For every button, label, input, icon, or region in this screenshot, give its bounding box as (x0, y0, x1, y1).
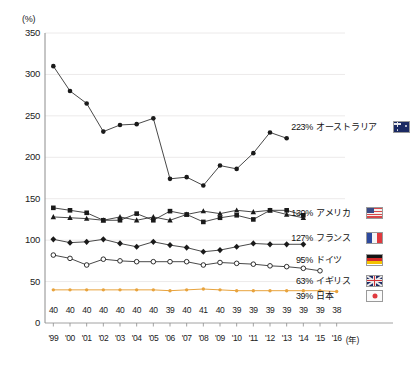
japan-data-label: 41 (194, 305, 212, 315)
japan-data-label: 40 (211, 305, 229, 315)
legend-entry: 127%フランス (285, 231, 383, 244)
data-series-germany (50, 236, 306, 255)
japan-data-label: 40 (94, 305, 112, 315)
y-axis-tick-label: 300 (14, 68, 40, 79)
japan-data-label: 39 (261, 305, 279, 315)
germany-flag-icon (366, 254, 383, 266)
legend-label: ドイツ (316, 253, 363, 266)
japan-data-label: 39 (311, 305, 329, 315)
legend-value: 63% (285, 276, 313, 286)
japan-data-label: 39 (161, 305, 179, 315)
x-axis-tick-label: '16 (326, 333, 348, 343)
japan-data-label: 39 (244, 305, 262, 315)
japan-data-label: 39 (294, 305, 312, 315)
y-axis-tick-label: 100 (14, 234, 40, 245)
japan-data-label: 40 (78, 305, 96, 315)
legend-label: アメリカ (316, 206, 363, 219)
france-flag-icon (366, 232, 383, 244)
x-axis-unit-label: (年) (346, 333, 359, 345)
legend-label: オーストラリア (316, 120, 390, 133)
legend-label: 日本 (316, 289, 363, 302)
data-series-united-states (51, 206, 306, 225)
y-axis-tick-label: 250 (14, 110, 40, 121)
data-series-united-kingdom (51, 253, 322, 273)
japan-data-label: 38 (328, 305, 346, 315)
japan-data-label: 40 (128, 305, 146, 315)
japan-data-label: 40 (61, 305, 79, 315)
y-axis-tick-label: 350 (14, 27, 40, 38)
legend-value: 127% (285, 233, 313, 243)
legend-entry: 223%オーストラリア (285, 120, 410, 133)
usa-flag-icon (366, 207, 383, 219)
legend-entry: 130%アメリカ (285, 206, 383, 219)
japan-data-label: 40 (44, 305, 62, 315)
legend-value: 223% (285, 122, 313, 132)
legend-value: 95% (285, 255, 313, 265)
uk-flag-icon (366, 275, 383, 287)
y-axis-tick-label: 150 (14, 193, 40, 204)
legend-label: イギリス (316, 274, 363, 287)
legend-entry: 95%ドイツ (285, 253, 383, 266)
legend-label: フランス (316, 231, 363, 244)
legend-value: 130% (285, 208, 313, 218)
japan-data-label: 39 (228, 305, 246, 315)
japan-data-label: 40 (144, 305, 162, 315)
japan-data-label: 40 (111, 305, 129, 315)
legend-entry: 39%日本 (285, 289, 383, 302)
data-series-australia (51, 64, 289, 188)
japan-data-label: 39 (278, 305, 296, 315)
y-axis-tick-label: 200 (14, 151, 40, 162)
australia-flag-icon (393, 121, 410, 133)
y-axis-tick-label: 50 (14, 276, 40, 287)
japan-flag-icon (366, 290, 383, 302)
y-axis-tick-label: 0 (14, 317, 40, 328)
legend-entry: 63%イギリス (285, 274, 383, 287)
legend-value: 39% (285, 291, 313, 301)
japan-data-label: 40 (178, 305, 196, 315)
